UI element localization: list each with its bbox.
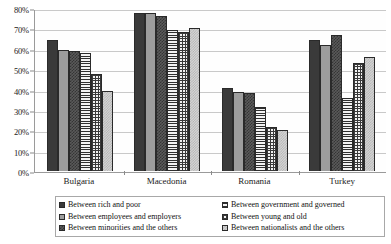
y-axis-tick-label: 40%	[14, 87, 29, 97]
bar	[255, 107, 266, 171]
bar	[277, 130, 288, 172]
bar	[102, 91, 113, 171]
x-axis-category-label: Turkey	[298, 176, 386, 186]
legend-swatch-icon	[222, 202, 228, 208]
bar-group	[299, 10, 387, 171]
bar-group	[124, 10, 212, 171]
bar	[266, 127, 277, 171]
plot-area-wrapper: 0%10%20%30%40%50%60%70%80%	[0, 2, 391, 188]
x-axis-category-label: Bulgaria	[35, 176, 123, 186]
bar	[353, 63, 364, 171]
bar	[47, 40, 58, 171]
y-axis-tick-label: 80%	[14, 5, 29, 15]
bar	[58, 50, 69, 172]
legend-item: Between government and governed	[222, 199, 381, 211]
bar	[233, 92, 244, 171]
chart-legend: Between rich and poorBetween government …	[55, 196, 385, 237]
bar	[80, 53, 91, 171]
bar	[222, 88, 233, 171]
y-axis-tick-label: 20%	[14, 127, 29, 137]
legend-item: Between employees and employers	[59, 211, 218, 223]
x-axis-category-labels: BulgariaMacedoniaRomaniaTurkey	[35, 176, 386, 186]
bar	[91, 74, 102, 171]
y-axis-tick-label: 50%	[14, 66, 29, 76]
bar	[309, 40, 320, 171]
legend-item: Between nationalists and the others	[222, 223, 381, 235]
legend-label: Between nationalists and the others	[231, 224, 344, 232]
x-axis-category-label: Macedonia	[123, 176, 211, 186]
plot-area	[34, 10, 386, 173]
legend-item: Between young and old	[222, 211, 381, 223]
x-axis-category-label: Romania	[211, 176, 299, 186]
y-axis-tick-label: 0%	[18, 168, 29, 178]
legend-label: Between young and old	[231, 213, 307, 221]
bar	[69, 51, 80, 171]
bar	[320, 45, 331, 171]
bar	[364, 57, 375, 171]
legend-label: Between employees and employers	[68, 213, 181, 221]
bar	[145, 13, 156, 171]
y-axis-tick-label: 30%	[14, 107, 29, 117]
bar-group	[211, 10, 299, 171]
bar	[244, 93, 255, 171]
bar	[189, 28, 200, 171]
legend-swatch-icon	[59, 202, 65, 208]
legend-swatch-icon	[222, 214, 228, 220]
legend-swatch-icon	[59, 214, 65, 220]
bar-groups	[36, 10, 386, 171]
y-axis-tick-label: 10%	[14, 148, 29, 158]
y-axis-tick-label: 60%	[14, 46, 29, 56]
legend-swatch-icon	[59, 225, 65, 231]
y-axis: 0%10%20%30%40%50%60%70%80%	[0, 2, 34, 174]
bar	[331, 35, 342, 171]
bar-chart: 0%10%20%30%40%50%60%70%80% BulgariaMaced…	[0, 0, 391, 244]
legend-label: Between government and governed	[231, 201, 345, 209]
bar-group	[36, 10, 124, 171]
legend-item: Between rich and poor	[59, 199, 218, 211]
bar	[156, 16, 167, 171]
y-axis-tick-label: 70%	[14, 25, 29, 35]
legend-swatch-icon	[222, 225, 228, 231]
bar	[134, 13, 145, 171]
bar	[167, 30, 178, 171]
legend-label: Between minorities and the others	[68, 224, 177, 232]
bar	[178, 32, 189, 171]
bar	[342, 98, 353, 171]
legend-label: Between rich and poor	[68, 201, 141, 209]
legend-item: Between minorities and the others	[59, 223, 218, 235]
